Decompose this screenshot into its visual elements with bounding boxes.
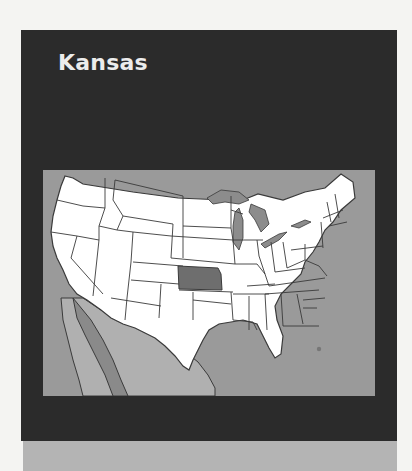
florida-marker <box>317 347 321 351</box>
us-map <box>43 170 375 396</box>
bottom-band <box>23 441 397 471</box>
kansas-highlight <box>178 266 222 290</box>
lake-michigan <box>233 208 243 250</box>
state-card: Kansas <box>21 30 397 441</box>
state-title: Kansas <box>58 50 148 75</box>
us-map-svg <box>43 170 375 396</box>
